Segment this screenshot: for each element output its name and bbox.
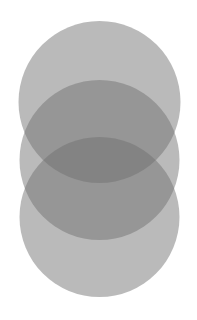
circle-bottom: [20, 137, 180, 297]
diagram-canvas: [0, 0, 197, 320]
overlapping-circles-diagram: [0, 0, 197, 320]
